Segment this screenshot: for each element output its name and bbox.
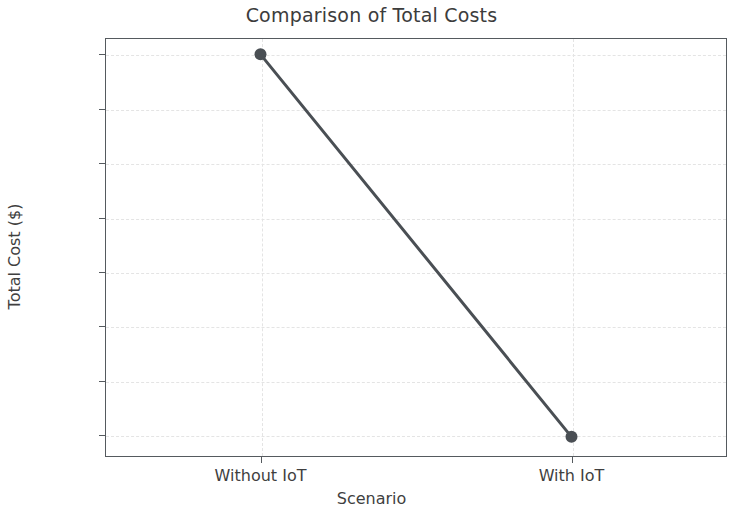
x-tick-label: Without IoT [215, 466, 307, 485]
chart-title: Comparison of Total Costs [0, 4, 743, 26]
x-tick-mark [261, 457, 262, 463]
grid-line-horizontal [106, 55, 726, 56]
grid-line-horizontal [106, 382, 726, 383]
grid-line-horizontal [106, 110, 726, 111]
plot-area [105, 38, 727, 457]
x-tick-mark [572, 457, 573, 463]
y-axis-label: Total Cost ($) [5, 157, 24, 357]
grid-line-horizontal [106, 219, 726, 220]
x-tick-label: With IoT [539, 466, 605, 485]
grid-line-horizontal [106, 273, 726, 274]
chart-figure: Comparison of Total Costs Total Cost ($)… [0, 0, 743, 517]
grid-line-vertical [262, 39, 263, 456]
grid-line-horizontal [106, 164, 726, 165]
grid-line-horizontal [106, 327, 726, 328]
x-axis-label: Scenario [0, 489, 743, 508]
grid-line-vertical [573, 39, 574, 456]
grid-line-horizontal [106, 436, 726, 437]
